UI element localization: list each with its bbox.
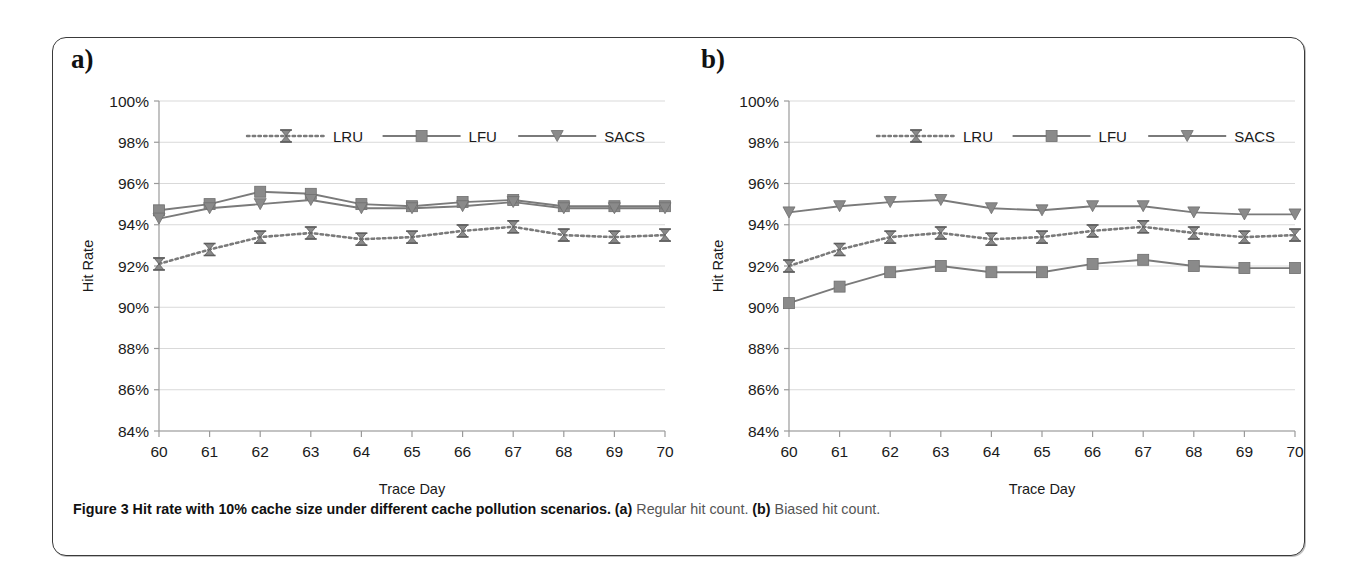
y-tick-label: 100% xyxy=(739,93,779,110)
legend-label-LFU: LFU xyxy=(1099,128,1127,145)
caption-a-text: Regular hit count. xyxy=(632,501,752,517)
legend-label-SACS: SACS xyxy=(1234,128,1275,145)
x-tick-label: 60 xyxy=(780,443,798,460)
x-tick-label: 70 xyxy=(656,443,674,460)
x-tick-label: 61 xyxy=(201,443,218,460)
y-tick-label: 94% xyxy=(748,216,779,233)
x-tick-label: 68 xyxy=(555,443,572,460)
y-tick-label: 84% xyxy=(748,423,779,440)
x-tick-label: 63 xyxy=(302,443,319,460)
y-tick-label: 92% xyxy=(118,258,149,275)
data-point-marker-square xyxy=(935,261,946,272)
y-axis-ticks: 84%86%88%90%92%94%96%98%100% xyxy=(739,93,789,440)
caption-b-text: Biased hit count. xyxy=(771,501,881,517)
series-LFU xyxy=(784,254,1301,308)
caption-main-text: Hit rate with 10% cache size under diffe… xyxy=(129,501,615,517)
y-tick-label: 86% xyxy=(118,381,149,398)
x-axis-title: Trace Day xyxy=(1009,481,1076,497)
y-axis-title: Hit Rate xyxy=(710,240,726,292)
x-tick-label: 61 xyxy=(831,443,848,460)
data-point-marker-square xyxy=(416,131,427,142)
y-tick-label: 84% xyxy=(118,423,149,440)
y-tick-label: 96% xyxy=(118,175,149,192)
y-tick-label: 86% xyxy=(748,381,779,398)
x-axis-ticks: 6061626364656667686970 xyxy=(150,431,674,460)
x-tick-label: 70 xyxy=(1286,443,1304,460)
chart-a-svg: 84%86%88%90%92%94%96%98%100%606162636465… xyxy=(53,38,693,498)
x-tick-label: 69 xyxy=(1236,443,1253,460)
grid-lines xyxy=(159,101,665,431)
y-tick-label: 98% xyxy=(748,134,779,151)
x-axis-title: Trace Day xyxy=(379,481,446,497)
x-tick-label: 66 xyxy=(1084,443,1101,460)
data-point-marker-square xyxy=(1046,131,1057,142)
figure-caption: Figure 3 Hit rate with 10% cache size un… xyxy=(73,500,1288,519)
legend-label-SACS: SACS xyxy=(604,128,645,145)
data-point-marker-square xyxy=(1087,258,1098,269)
x-tick-label: 65 xyxy=(1033,443,1050,460)
x-tick-label: 65 xyxy=(403,443,420,460)
x-tick-label: 67 xyxy=(505,443,522,460)
data-point-marker-square xyxy=(784,298,795,309)
series-LRU xyxy=(153,221,671,270)
grid-lines xyxy=(789,101,1295,431)
x-axis-ticks: 6061626364656667686970 xyxy=(780,431,1304,460)
x-tick-label: 63 xyxy=(932,443,949,460)
series-SACS xyxy=(783,195,1301,220)
x-tick-label: 60 xyxy=(150,443,168,460)
data-point-marker-square xyxy=(1138,254,1149,265)
data-point-marker-square xyxy=(1037,267,1048,278)
y-tick-label: 94% xyxy=(118,216,149,233)
caption-a-label: (a) xyxy=(615,501,632,517)
y-axis-title: Hit Rate xyxy=(80,240,96,292)
y-tick-label: 100% xyxy=(109,93,149,110)
series-LRU xyxy=(783,221,1301,272)
chart-b-svg: 84%86%88%90%92%94%96%98%100%606162636465… xyxy=(683,38,1323,498)
y-tick-label: 96% xyxy=(748,175,779,192)
data-point-marker-square xyxy=(1188,261,1199,272)
x-tick-label: 62 xyxy=(252,443,269,460)
y-tick-label: 88% xyxy=(748,340,779,357)
x-tick-label: 64 xyxy=(983,443,1001,460)
y-axis-ticks: 84%86%88%90%92%94%96%98%100% xyxy=(109,93,159,440)
data-point-marker-square xyxy=(255,186,266,197)
x-tick-label: 62 xyxy=(882,443,899,460)
y-tick-label: 92% xyxy=(748,258,779,275)
data-point-marker-square xyxy=(1239,263,1250,274)
data-point-marker-square xyxy=(834,281,845,292)
data-point-marker-hourglass xyxy=(154,258,164,270)
chart-panel-a: a) 84%86%88%90%92%94%96%98%100%606162636… xyxy=(53,38,693,498)
x-tick-label: 67 xyxy=(1135,443,1152,460)
caption-b-label: (b) xyxy=(752,501,770,517)
x-tick-label: 66 xyxy=(454,443,471,460)
data-point-marker-square xyxy=(885,267,896,278)
chart-panel-b: b) 84%86%88%90%92%94%96%98%100%606162636… xyxy=(683,38,1323,498)
legend-label-LRU: LRU xyxy=(963,128,993,145)
legend-label-LRU: LRU xyxy=(333,128,363,145)
x-tick-label: 64 xyxy=(353,443,371,460)
x-tick-label: 68 xyxy=(1185,443,1202,460)
y-tick-label: 90% xyxy=(748,299,779,316)
legend-label-LFU: LFU xyxy=(469,128,497,145)
caption-figure-number: Figure 3 xyxy=(73,501,129,517)
y-tick-label: 88% xyxy=(118,340,149,357)
y-tick-label: 90% xyxy=(118,299,149,316)
figure-frame: a) 84%86%88%90%92%94%96%98%100%606162636… xyxy=(52,37,1305,556)
data-point-marker-square xyxy=(1290,263,1301,274)
data-point-marker-square xyxy=(986,267,997,278)
y-tick-label: 98% xyxy=(118,134,149,151)
x-tick-label: 69 xyxy=(606,443,623,460)
